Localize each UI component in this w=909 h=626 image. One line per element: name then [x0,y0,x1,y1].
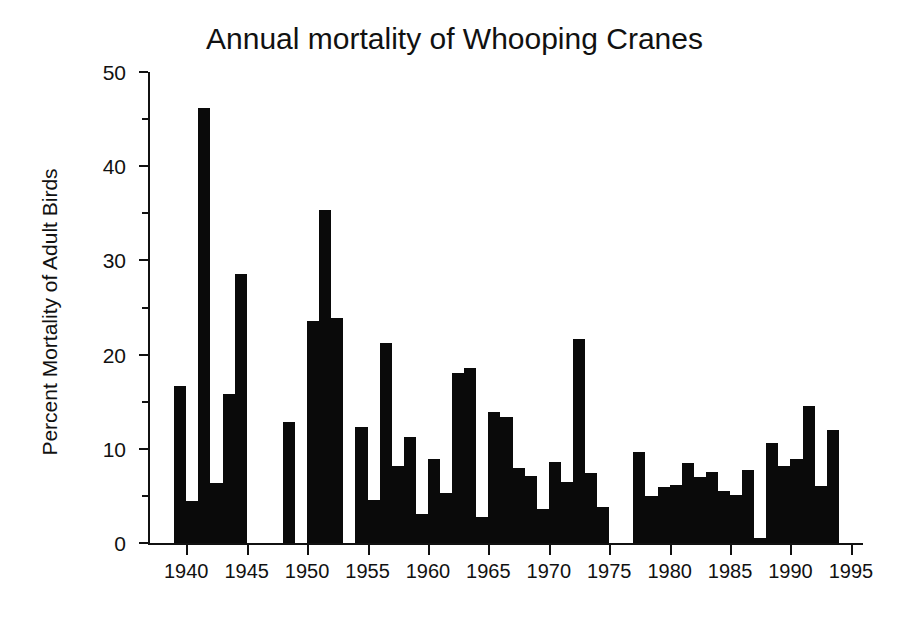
bar [694,477,706,543]
bar [500,417,512,543]
bar [392,466,404,543]
bar [525,476,537,543]
plot-area: 01020304050 1940194519501955196019651970… [148,72,863,543]
x-tick-label: 1965 [466,561,511,581]
bar [416,514,428,543]
x-tick-major: 1945 [247,545,249,555]
y-tick-minor [142,495,148,497]
bar [174,386,186,543]
bar [368,500,380,543]
x-tick-major: 1990 [790,545,792,555]
bar [464,368,476,543]
bar [573,339,585,543]
bar [198,108,210,543]
bar [404,437,416,543]
bar [186,501,198,543]
x-tick-label: 1975 [587,561,632,581]
y-tick-major: 30 [139,259,148,261]
bar [380,343,392,543]
y-tick-label: 50 [103,62,126,83]
x-tick-major: 1985 [730,545,732,555]
x-axis-line [148,543,863,545]
y-tick-major: 50 [139,71,148,73]
x-tick-label: 1980 [647,561,692,581]
y-tick-major: 10 [139,448,148,450]
bar [513,468,525,543]
y-tick-minor [142,212,148,214]
x-tick-major: 1965 [488,545,490,555]
y-tick-major: 20 [139,354,148,356]
y-tick-major: 0 [139,542,148,544]
x-tick-major: 1940 [186,545,188,555]
bar [235,274,247,543]
bar [283,422,295,543]
y-tick-label: 40 [103,156,126,177]
bar [706,472,718,543]
bar [488,412,500,543]
x-tick-label: 1940 [164,561,209,581]
bar [730,495,742,543]
x-tick-major: 1995 [851,545,853,555]
bar [803,406,815,543]
bar [742,470,754,543]
bar [585,473,597,543]
bar [561,482,573,543]
x-tick-label: 1995 [829,561,874,581]
bar [223,394,235,543]
bar [355,427,367,543]
x-tick-label: 1955 [345,561,390,581]
bar [476,517,488,543]
y-tick-minor [142,401,148,403]
bar [428,459,440,543]
y-tick-label: 10 [103,438,126,459]
bar [331,318,343,543]
x-tick-major: 1980 [670,545,672,555]
bar [790,459,802,543]
bar [633,452,645,543]
x-tick-label: 1960 [406,561,451,581]
bar [549,462,561,543]
bar [658,487,670,543]
bar [766,443,778,543]
bar [682,463,694,543]
x-tick-major: 1950 [307,545,309,555]
x-tick-label: 1950 [285,561,330,581]
x-tick-label: 1990 [768,561,813,581]
chart-title: Annual mortality of Whooping Cranes [0,22,909,56]
bar [440,493,452,543]
y-tick-minor [142,118,148,120]
bar [778,466,790,543]
x-tick-major: 1970 [549,545,551,555]
y-tick-minor [142,307,148,309]
bar [754,538,766,543]
y-axis-label: Percent Mortality of Adult Birds [38,92,62,532]
bar [452,373,464,543]
bar [827,430,839,543]
bar [718,491,730,543]
x-tick-major: 1955 [368,545,370,555]
bar-series [150,72,863,543]
x-tick-label: 1985 [708,561,753,581]
y-tick-major: 40 [139,165,148,167]
bar [537,509,549,543]
bar [645,496,657,543]
y-tick-label: 30 [103,250,126,271]
chart-figure: Annual mortality of Whooping Cranes Perc… [0,0,909,626]
x-tick-major: 1975 [609,545,611,555]
y-tick-label: 20 [103,344,126,365]
bar [670,485,682,543]
x-tick-label: 1970 [527,561,572,581]
bar [307,321,319,543]
y-tick-label: 0 [114,533,126,554]
bar [319,210,331,543]
bar [597,507,609,543]
bar [815,486,827,543]
x-tick-major: 1960 [428,545,430,555]
x-tick-label: 1945 [224,561,269,581]
bar [210,483,222,543]
